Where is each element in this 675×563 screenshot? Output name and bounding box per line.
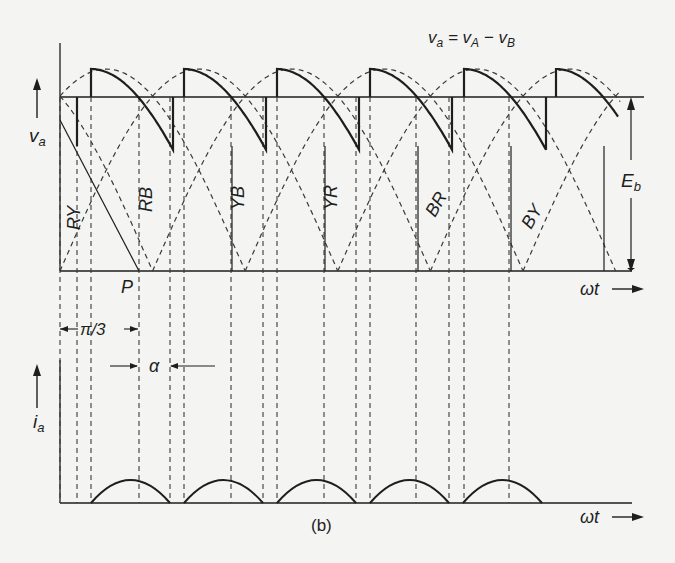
voltage-wt-label: ωt xyxy=(580,279,600,299)
line-voltage-falling-segment xyxy=(60,120,139,271)
line-voltage-dashed-curve xyxy=(430,69,620,271)
point-p-label: P xyxy=(121,277,133,297)
current-wt-arrow-icon xyxy=(612,513,644,521)
ia-axis-arrow-icon xyxy=(33,364,41,408)
alpha-dimension-arrow-icon xyxy=(110,363,215,369)
va-axis-label: va xyxy=(29,125,46,149)
waveform-curves-group xyxy=(60,69,618,503)
line-voltage-dashed-curve xyxy=(60,69,245,271)
line-voltage-dashed-curve xyxy=(523,91,620,271)
armature-current-pulse xyxy=(184,480,263,503)
ia-axis-label: ia xyxy=(33,411,44,435)
output-voltage-va-segment xyxy=(556,69,618,117)
eb-label: Eb xyxy=(621,170,641,194)
output-voltage-va-segment xyxy=(277,69,359,150)
axes-group xyxy=(60,43,644,503)
pi-over-3-label: π/3 xyxy=(80,320,106,339)
voltage-wt-arrow-icon xyxy=(612,285,644,293)
armature-current-pulse xyxy=(277,480,356,503)
converter-waveform-figure: va = vA − vB va ia ωt ωt P Eb xyxy=(0,0,675,563)
va-axis-arrow-icon xyxy=(33,78,41,118)
equation-label: va = vA − vB xyxy=(428,28,515,50)
current-wt-label: ωt xyxy=(580,507,600,527)
armature-current-pulse xyxy=(370,480,449,503)
armature-current-pulse xyxy=(463,480,542,503)
line-voltage-label-rb: RB xyxy=(136,187,156,212)
output-voltage-va-segment xyxy=(91,69,173,150)
line-voltage-labels-group: RYRBYBYRBRBY xyxy=(64,185,547,232)
figure-caption: (b) xyxy=(311,516,332,535)
line-voltage-label-br: BR xyxy=(421,188,451,220)
armature-current-pulse xyxy=(91,480,170,503)
line-voltage-label-yr: YR xyxy=(321,185,341,210)
line-voltage-label-ry: RY xyxy=(64,204,84,230)
line-voltage-label-yb: YB xyxy=(228,186,248,210)
alpha-label: α xyxy=(149,356,160,376)
output-voltage-va-segment xyxy=(370,69,452,150)
output-voltage-va-segment xyxy=(184,69,266,150)
